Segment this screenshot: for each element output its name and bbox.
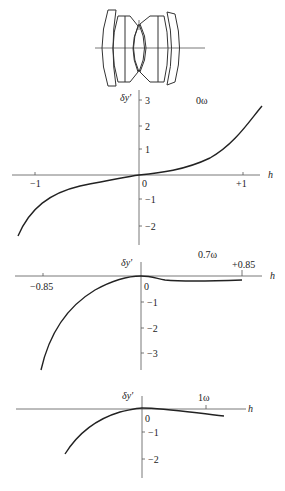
x-axis-label: h <box>268 169 273 180</box>
y-tick-label: 3 <box>145 95 150 106</box>
x-tick-label: 0 <box>145 413 150 424</box>
x-axis-label: h <box>248 403 253 414</box>
y-tick-label: −1 <box>148 427 159 438</box>
lens-element-5 <box>167 12 180 85</box>
chart-1w: δy' −1 −2 0 h 1ω <box>16 390 253 478</box>
y-tick-label: −2 <box>145 221 156 232</box>
chart-0w: δy' 3 2 1 −1 −2 −1 0 +1 h 0ω <box>12 90 273 245</box>
y-axis-label: δy' <box>122 390 134 401</box>
curve-0w <box>18 106 262 236</box>
y-tick-label: −3 <box>147 348 158 359</box>
x-tick-label: +0.85 <box>232 259 255 270</box>
y-axis-label: δy' <box>121 257 133 268</box>
x-tick-label: −0.85 <box>30 281 53 292</box>
chart-title: 0ω <box>196 95 208 106</box>
x-axis-label: h <box>270 270 275 281</box>
y-tick-label: 2 <box>145 121 150 132</box>
chart-title: 0.7ω <box>198 249 218 260</box>
lens-diagram <box>95 10 205 86</box>
y-tick-label: −2 <box>147 323 158 334</box>
y-axis-label: δy' <box>120 92 132 103</box>
x-tick-label: 0 <box>144 281 149 292</box>
chart-0-7w: δy' −1 −2 −3 −0.85 0 +0.85 h 0.7ω <box>15 249 275 370</box>
curve-0-7w <box>41 276 242 370</box>
figure: δy' 3 2 1 −1 −2 −1 0 +1 h 0ω δy' −1 −2 −… <box>0 0 285 491</box>
x-tick-label: 0 <box>142 178 147 189</box>
x-tick-label: −1 <box>30 178 41 189</box>
chart-title: 1ω <box>198 392 210 403</box>
y-tick-label: −1 <box>145 194 156 205</box>
y-tick-label: −1 <box>147 297 158 308</box>
y-tick-label: −2 <box>148 454 159 465</box>
x-tick-label: +1 <box>236 178 247 189</box>
y-tick-label: 1 <box>145 144 150 155</box>
